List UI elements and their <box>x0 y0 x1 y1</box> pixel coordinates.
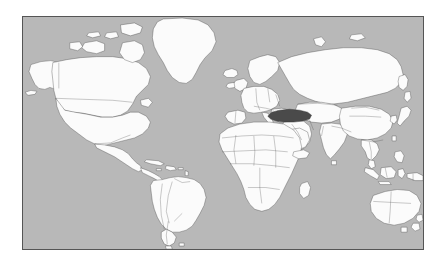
page-root <box>0 0 444 267</box>
jamaica-shape <box>156 169 161 171</box>
puerto-rico-shape <box>178 168 183 170</box>
tierra-del-fuego-shape <box>165 246 172 249</box>
falkland-islands-shape <box>179 243 184 246</box>
taiwan-shape <box>392 136 396 141</box>
world-map-svg[interactable] <box>23 17 423 249</box>
world-map-frame[interactable] <box>22 16 424 250</box>
tasmania-shape <box>401 227 407 232</box>
sri-lanka-shape <box>331 161 336 165</box>
lesser-antilles-shape <box>185 171 188 176</box>
java-shape <box>378 182 391 185</box>
